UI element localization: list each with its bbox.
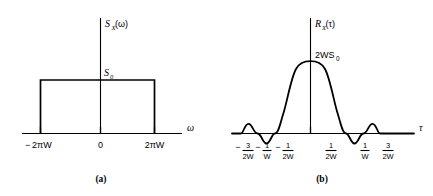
panel-a: S X (ω) S 0 − 2πW 0 2πW ω (a): [22, 18, 194, 185]
panel-b: 2WS 0 R X (τ) − 3 2W − 1 W − 1 2W: [232, 18, 423, 185]
panel-b-xtick-label-4: 1 W: [361, 141, 370, 161]
panel-b-xtick-1-num: 1: [265, 141, 269, 150]
panel-b-xtick-1-sign: −: [255, 142, 260, 152]
panel-b-xtick-3-den: 2W: [325, 152, 337, 161]
figure-container: S X (ω) S 0 − 2πW 0 2πW ω (a) 2WS: [0, 0, 433, 196]
panel-a-y-axis-label-arg: (ω): [115, 19, 128, 29]
panel-b-peak-label: 2WS 0: [315, 50, 340, 62]
panel-b-xtick-5-num: 3: [386, 141, 390, 150]
panel-a-caption: (a): [95, 174, 106, 185]
panel-b-x-axis-label: τ: [419, 122, 423, 133]
panel-a-xtick-neg-text: 2πW: [32, 140, 52, 150]
panel-a-xtick-label-pos: 2πW: [145, 140, 165, 150]
panel-a-xtick-neg-sign: −: [25, 140, 30, 150]
panel-b-xtick-4-den: W: [361, 152, 369, 161]
panel-a-xtick-label-zero: 0: [98, 140, 103, 150]
panel-b-xtick-0-den: 2W: [242, 152, 254, 161]
panel-b-sinc-curve: [232, 61, 414, 143]
panel-b-y-axis-label-main: R: [314, 18, 321, 29]
panel-a-psd-rect: [41, 80, 155, 134]
panel-b-y-axis-label-arg: (τ): [326, 19, 336, 29]
panel-a-x-axis-label: ω: [187, 122, 194, 133]
panel-a-xtick-label-neg: − 2πW: [25, 140, 52, 150]
panel-a-level-label: S 0: [104, 67, 114, 80]
panel-b-xtick-2-num: 1: [286, 141, 290, 150]
panel-a-level-label-sub: 0: [110, 73, 114, 80]
panel-b-xtick-2-den: 2W: [282, 152, 294, 161]
panel-b-xtick-0-sign: −: [235, 142, 240, 152]
panel-b-xtick-0-num: 3: [246, 141, 250, 150]
panel-a-y-axis-label-main: S: [105, 18, 110, 29]
panel-b-xtick-1-den: W: [263, 152, 271, 161]
panel-b-xtick-2-sign: −: [275, 142, 280, 152]
panel-a-level-label-main: S: [104, 67, 109, 78]
panel-b-xtick-label-5: 3 2W: [382, 141, 394, 161]
panel-b-xtick-3-num: 1: [329, 141, 333, 150]
panel-b-caption: (b): [316, 174, 328, 185]
panel-b-xtick-5-den: 2W: [382, 152, 394, 161]
panel-b-y-axis-label: R X (τ): [314, 18, 335, 31]
panel-b-xtick-label-0: − 3 2W: [235, 141, 254, 161]
panel-b-peak-label-sub: 0: [336, 55, 340, 62]
panel-b-xtick-label-1: − 1 W: [255, 141, 271, 161]
panel-b-xtick-label-2: − 1 2W: [275, 141, 294, 161]
panel-b-peak-label-main: 2WS: [315, 50, 335, 60]
panel-a-y-axis-label: S X (ω): [105, 18, 128, 31]
panel-b-xtick-label-3: 1 2W: [325, 141, 337, 161]
panel-b-xtick-4-num: 1: [363, 141, 367, 150]
